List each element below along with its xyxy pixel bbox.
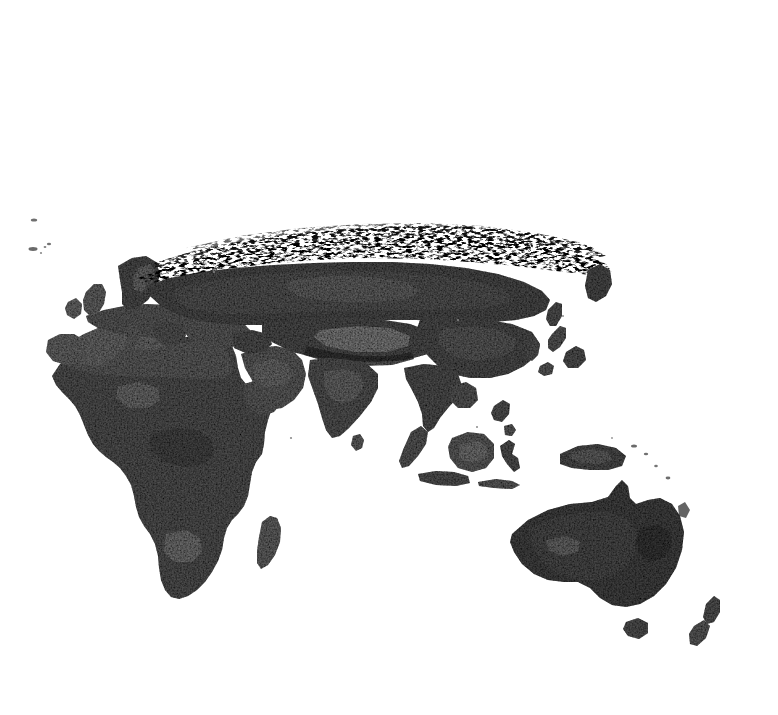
- map-canvas: [0, 34, 738, 670]
- world-map-raster: [0, 34, 738, 670]
- figure-page: [0, 0, 778, 715]
- figure-title: [0, 0, 1, 1]
